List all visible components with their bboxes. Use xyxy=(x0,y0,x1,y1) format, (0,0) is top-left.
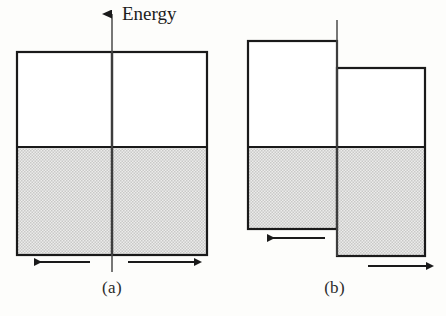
panel-b-caption: (b) xyxy=(223,278,446,298)
panel-b xyxy=(248,20,426,266)
panel-a-right-block-fill xyxy=(112,147,207,255)
panel-b-left-block-fill xyxy=(248,147,337,229)
panel-b-left-block-empty xyxy=(248,41,337,147)
panel-b-right-block-fill xyxy=(337,147,425,256)
panel-b-right-block-empty xyxy=(337,68,425,147)
band-diagram-figure: Energy (a) (b) xyxy=(0,0,446,316)
panel-a-left-block-fill xyxy=(17,147,112,255)
panel-a-caption: (a) xyxy=(0,278,224,298)
energy-axis-label: Energy xyxy=(122,3,177,25)
band-diagram-canvas xyxy=(0,0,446,316)
panel-a-right-block-empty xyxy=(112,52,207,147)
panel-a xyxy=(17,14,207,272)
panel-a-left-block-empty xyxy=(17,52,112,147)
